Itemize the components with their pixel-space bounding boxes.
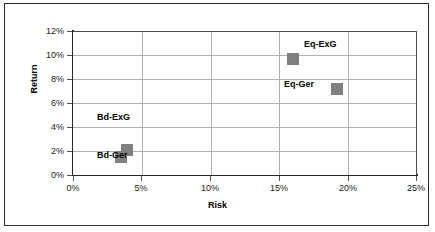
- x-axis-title: Risk: [5, 200, 430, 210]
- y-tick-label: 12%: [24, 26, 64, 36]
- y-tick-label: 8%: [24, 74, 64, 84]
- gridline-horizontal: [73, 79, 417, 80]
- y-tick-label: 2%: [24, 146, 64, 156]
- x-axis-tick: [73, 176, 74, 181]
- chart-frame: Return 12% 10% 8% 6% 4% 2% 0% 0% 5% 10% …: [4, 3, 429, 226]
- plot-border-right: [416, 31, 417, 175]
- data-point-marker[interactable]: [287, 53, 299, 65]
- gridline-horizontal: [73, 103, 417, 104]
- x-axis-tick: [348, 176, 349, 181]
- data-point-label-bd-exg: Bd-ExG: [97, 112, 130, 122]
- x-axis-tick: [416, 176, 417, 181]
- x-tick-label: 5%: [121, 183, 161, 193]
- data-point-label-eq-exg: Eq-ExG: [304, 39, 337, 49]
- x-tick-label: 10%: [190, 183, 230, 193]
- y-tick-label: 6%: [24, 98, 64, 108]
- y-tick-label: 0%: [24, 170, 64, 180]
- gridline-horizontal: [73, 127, 417, 128]
- plot-area: Bd-ExG Bd-Ger Eq-ExG Eq-Ger: [73, 31, 417, 175]
- y-tick-label: 10%: [24, 50, 64, 60]
- gridline-vertical: [211, 31, 212, 175]
- gridline-horizontal: [73, 55, 417, 56]
- x-tick-label: 20%: [328, 183, 368, 193]
- data-point-label-eq-ger: Eq-Ger: [284, 79, 314, 89]
- x-axis-tick: [210, 176, 211, 181]
- gridline-vertical: [142, 31, 143, 175]
- x-tick-label: 25%: [396, 183, 435, 193]
- x-tick-label: 15%: [259, 183, 299, 193]
- x-axis-tick: [141, 176, 142, 181]
- x-axis-tick: [279, 176, 280, 181]
- y-tick-label: 4%: [24, 122, 64, 132]
- data-point-label-bd-ger: Bd-Ger: [97, 150, 128, 160]
- plot-border-top: [73, 31, 417, 32]
- data-point-marker[interactable]: [331, 83, 343, 95]
- gridline-vertical: [348, 31, 349, 175]
- x-tick-label: 0%: [53, 183, 93, 193]
- gridline-vertical: [279, 31, 280, 175]
